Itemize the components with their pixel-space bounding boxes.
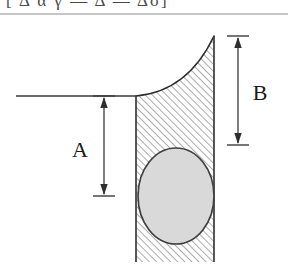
- bubble-ellipse: [138, 148, 214, 244]
- dimension-b-arrowhead-up: [234, 37, 241, 48]
- dimension-a: A: [72, 96, 115, 196]
- dimension-b: B: [227, 36, 267, 145]
- meniscus-diagram: A B: [0, 0, 288, 274]
- dimension-a-arrowhead-up: [100, 97, 107, 108]
- dimension-b-label: B: [253, 80, 268, 105]
- figure-container: A B [ Δ α γ — Δ — Δσ]: [0, 0, 288, 274]
- dimension-a-label: A: [72, 137, 88, 162]
- dimension-a-arrowhead-down: [100, 184, 107, 195]
- dimension-b-arrowhead-down: [234, 133, 241, 144]
